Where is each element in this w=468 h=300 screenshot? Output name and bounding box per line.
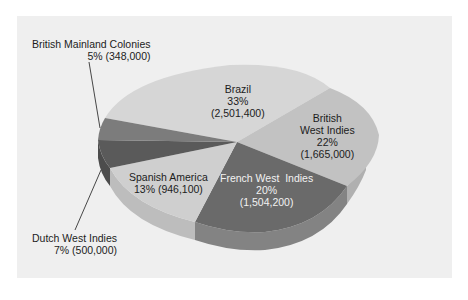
label-fwi-value: (1,504,200) (220, 196, 313, 208)
label-dutch-name: Dutch West Indies (32, 232, 117, 244)
label-bmc-name: British Mainland Colonies (32, 38, 150, 50)
leader-line-british-mainland (89, 62, 100, 128)
label-spanish-name: Spanish America (129, 171, 208, 183)
label-french-west-indies: French West Indies 20% (1,504,200) (220, 172, 313, 208)
label-spanish-america: Spanish America 13% (946,100) (129, 171, 208, 195)
label-bmc-pctval: 5% (348,000) (32, 50, 150, 62)
label-brazil: Brazil 33% (2,501,400) (211, 83, 265, 119)
label-bwi-value: (1,665,000) (300, 148, 355, 160)
label-fwi-name: French West Indies (220, 172, 313, 184)
label-bwi-name-1: British (300, 112, 355, 124)
label-dutch-pctval: 7% (500,000) (32, 244, 117, 256)
label-brazil-name: Brazil (211, 83, 265, 95)
label-british-west-indies: British West Indies 22% (1,665,000) (300, 112, 355, 160)
label-fwi-pct: 20% (220, 184, 313, 196)
label-bwi-name-2: West Indies (300, 124, 355, 136)
label-bwi-pct: 22% (300, 136, 355, 148)
label-brazil-value: (2,501,400) (211, 107, 265, 119)
label-dutch-west-indies: Dutch West Indies 7% (500,000) (32, 232, 117, 256)
label-spanish-pctval: 13% (946,100) (129, 183, 208, 195)
label-british-mainland-colonies: British Mainland Colonies 5% (348,000) (32, 38, 150, 62)
leader-line-dutch-west-indies (75, 170, 101, 230)
label-brazil-pct: 33% (211, 95, 265, 107)
